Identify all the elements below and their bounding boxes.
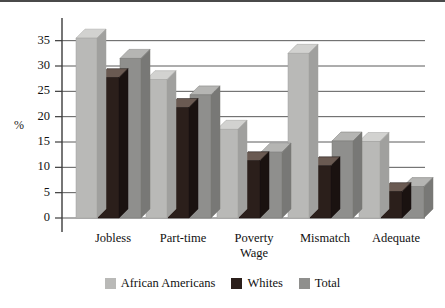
bar (217, 120, 247, 218)
bar-side-face (309, 44, 318, 218)
plot-area (0, 0, 445, 308)
bar-group (76, 29, 150, 218)
legend-swatch-icon (231, 278, 242, 289)
y-axis-tick-label: 35 (24, 33, 50, 48)
bar-side-face (380, 132, 389, 218)
y-axis-tick-label: 25 (24, 83, 50, 98)
bar-chart: % 05101520253035 JoblessPart-timePoverty… (0, 0, 445, 308)
y-axis-tick-label: 20 (24, 109, 50, 124)
bar-side-face (353, 132, 362, 218)
bar-group (288, 44, 362, 218)
bar-group (146, 71, 220, 218)
bar-side-face (260, 152, 269, 218)
legend-swatch-icon (299, 278, 310, 289)
bars-layer (76, 29, 433, 218)
legend-swatch-icon (105, 278, 116, 289)
bar (146, 71, 176, 218)
bar-side-face (189, 99, 198, 218)
bar-front-face (76, 38, 97, 218)
legend-item: African Americans (105, 276, 216, 291)
bar-side-face (167, 71, 176, 218)
legend-label: Whites (247, 276, 282, 291)
x-axis-tick-label-line: Adequate (346, 231, 445, 246)
bar (359, 132, 389, 218)
legend-item: Total (299, 276, 341, 291)
legend-item: Whites (231, 276, 282, 291)
legend-label: Total (315, 276, 341, 291)
y-axis-tick-label: 30 (24, 58, 50, 73)
y-axis-tick-label: 5 (24, 185, 50, 200)
bar-side-face (97, 29, 106, 218)
bar-group (217, 120, 291, 218)
y-axis-tick-label: 10 (24, 159, 50, 174)
bar-side-face (238, 120, 247, 218)
y-axis-tick-label: 15 (24, 134, 50, 149)
y-axis-tick-label: 0 (24, 210, 50, 225)
x-axis-tick-label: Adequate (346, 231, 445, 246)
bar-side-face (282, 143, 291, 218)
chart-legend: African AmericansWhitesTotal (0, 276, 445, 291)
bar-side-face (331, 157, 340, 218)
bar (76, 29, 106, 218)
bar-group (359, 132, 433, 218)
bar-side-face (211, 86, 220, 218)
bar-side-face (119, 69, 128, 218)
bar-side-face (141, 49, 150, 218)
x-axis-tick-label-line: Wage (204, 246, 304, 261)
legend-label: African Americans (121, 276, 216, 291)
bar (288, 44, 318, 218)
